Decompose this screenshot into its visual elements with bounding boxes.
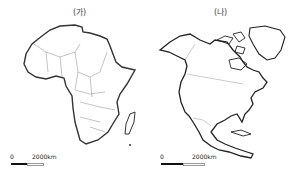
scale-distance-ga: 2000km: [32, 153, 57, 160]
scale-distance-na: 2000km: [192, 153, 217, 160]
map-label-ga: (가): [73, 6, 86, 17]
scale-zero-na: 0: [160, 153, 164, 160]
scale-bar-na-light: [183, 163, 205, 166]
map-label-na: (나): [214, 6, 227, 17]
africa-map: [20, 22, 150, 152]
scale-bar-ga-light: [27, 163, 44, 166]
north-america-map: [155, 22, 295, 162]
scale-bar-na-dark: [161, 163, 183, 165]
scale-bar-ga-dark: [11, 163, 27, 165]
scale-zero-ga: 0: [10, 153, 14, 160]
